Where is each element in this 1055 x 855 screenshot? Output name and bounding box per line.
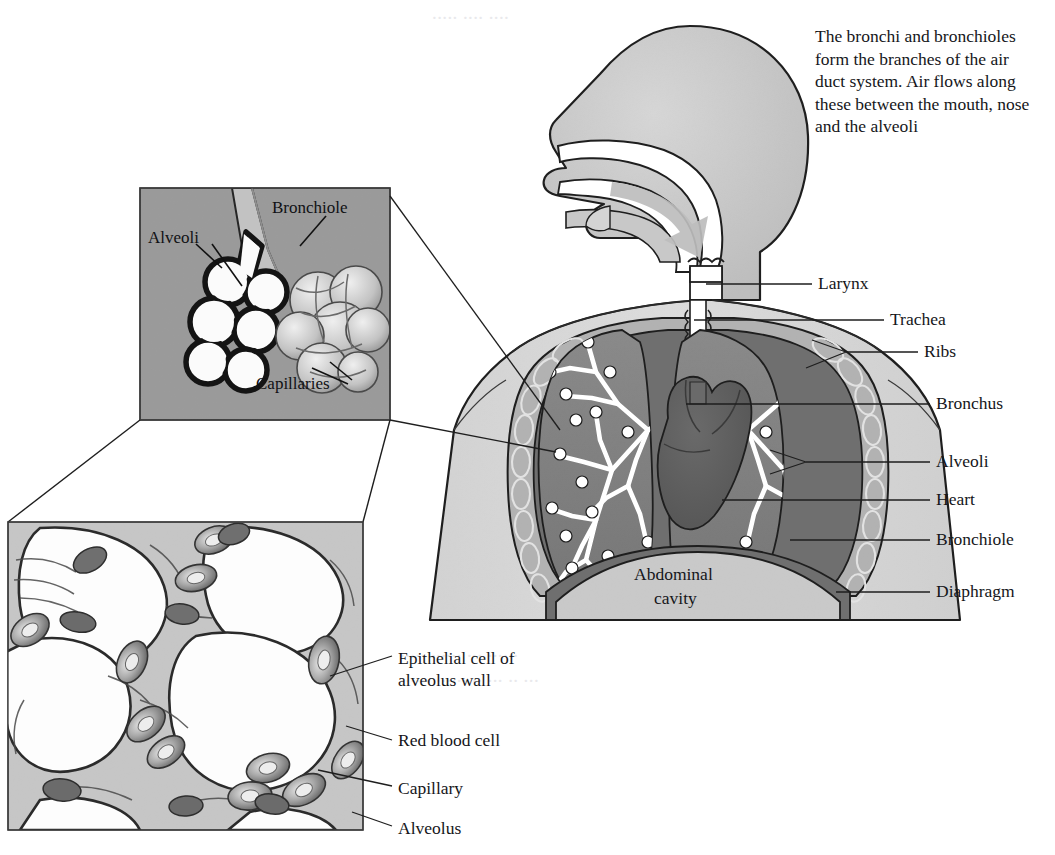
label-diaphragm: Diaphragm xyxy=(936,581,1015,602)
label-trachea: Trachea xyxy=(890,309,946,330)
label-ribs: Ribs xyxy=(924,341,956,362)
micrograph-art xyxy=(5,520,371,830)
label-bronchiole: Bronchiole xyxy=(936,529,1014,550)
figure-caption: The bronchi and bronchioles form the bra… xyxy=(815,25,1040,138)
magnification-cone xyxy=(8,420,390,522)
figure-canvas: ..... .... .... ..... ...... ... ...... … xyxy=(0,0,1055,855)
label-epithelial-cell-line2: alveolus wall xyxy=(398,670,491,691)
label-abdominal-cavity-line1: Abdominal xyxy=(634,564,713,585)
label-red-blood-cell: Red blood cell xyxy=(398,730,500,751)
label-bronchus: Bronchus xyxy=(936,393,1003,414)
label-capillary: Capillary xyxy=(398,778,463,799)
head-and-neck xyxy=(544,26,808,300)
inset-label-alveoli: Alveoli xyxy=(148,228,199,248)
label-larynx: Larynx xyxy=(818,273,869,294)
label-alveoli: Alveoli xyxy=(936,451,989,472)
inset-label-bronchiole: Bronchiole xyxy=(272,198,348,218)
label-epithelial-cell-line1: Epithelial cell of xyxy=(398,648,515,669)
inset-label-capillaries: Capillaries xyxy=(256,374,330,394)
label-abdominal-cavity-line2: cavity xyxy=(654,588,697,609)
label-heart: Heart xyxy=(936,489,975,510)
label-alveolus: Alveolus xyxy=(398,818,461,839)
